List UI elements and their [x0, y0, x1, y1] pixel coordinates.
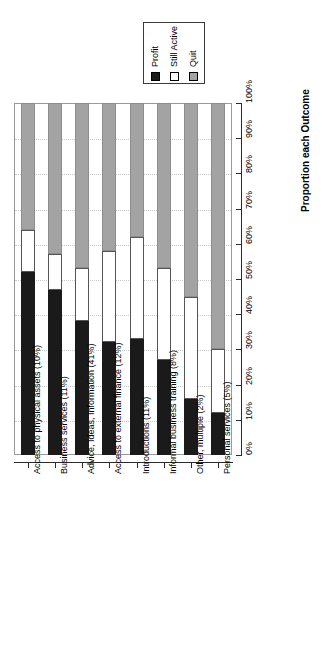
bar-segment-active: [75, 268, 89, 321]
bar-segment-quit: [102, 103, 116, 251]
value-tick: [236, 455, 241, 456]
value-tick: [236, 103, 241, 104]
value-tick: [236, 173, 241, 174]
category-tick: [164, 462, 165, 468]
value-axis-title: Proportion each Outcome: [300, 89, 312, 212]
value-tick-label: 30%: [244, 331, 254, 349]
category-label-6: Other, multiple (2%): [195, 394, 205, 474]
category-tick: [109, 462, 110, 468]
category-label-4: Introductions (11%): [141, 397, 151, 474]
bar-segment-quit: [75, 103, 89, 268]
category-label-3: Access to external finance (12%): [113, 342, 123, 474]
category-tick: [191, 462, 192, 468]
legend-label-quit: Quit: [189, 50, 198, 67]
bar-segment-active: [48, 254, 62, 289]
value-tick-label: 0%: [244, 442, 254, 455]
legend-swatch-profit: [151, 72, 160, 81]
value-tick: [236, 349, 241, 350]
category-tick: [28, 462, 29, 468]
category-label-0: Access to physical assets (10%): [32, 345, 42, 474]
legend-inner: Profit Still Active Quit: [144, 23, 206, 85]
bar-segment-quit: [211, 103, 225, 349]
category-label-2: Advice, Ideas, Information (41%): [86, 343, 96, 474]
category-label-1: Business services (11%): [59, 376, 69, 474]
value-tick-label: 100%: [244, 80, 254, 103]
bar-segment-quit: [48, 103, 62, 254]
category-label-7: Personal services (5%): [222, 381, 232, 474]
bar-segment-active: [157, 268, 171, 360]
legend-item-still-active: Still Active: [167, 26, 182, 81]
category-tick: [137, 462, 138, 468]
legend-item-profit: Profit: [148, 46, 163, 81]
bar-segment-active: [21, 230, 35, 272]
legend-label-still-active: Still Active: [170, 26, 179, 67]
bar-segment-quit: [130, 103, 144, 237]
value-tick: [236, 314, 241, 315]
category-label-5: Informal business training (8%): [168, 350, 178, 474]
bar-segment-active: [130, 237, 144, 339]
value-tick-label: 10%: [244, 402, 254, 420]
bar-segment-quit: [157, 103, 171, 268]
value-tick: [236, 385, 241, 386]
chart-root: Profit Still Active Quit 0%10%20%30%40%5…: [0, 0, 330, 659]
bar-segment-active: [184, 297, 198, 399]
category-tick: [82, 462, 83, 468]
value-tick: [236, 209, 241, 210]
legend-item-quit: Quit: [186, 50, 201, 81]
value-tick: [236, 279, 241, 280]
legend-swatch-quit: [189, 72, 198, 81]
legend-label-profit: Profit: [151, 46, 160, 67]
value-tick-label: 20%: [244, 367, 254, 385]
value-tick-label: 50%: [244, 261, 254, 279]
value-tick-label: 70%: [244, 191, 254, 209]
bar-segment-active: [102, 251, 116, 343]
value-tick: [236, 420, 241, 421]
value-tick: [236, 138, 241, 139]
value-axis-line: [241, 103, 242, 456]
chart-legend: Profit Still Active Quit: [143, 22, 205, 84]
bar-segment-quit: [184, 103, 198, 297]
value-tick-label: 40%: [244, 296, 254, 314]
bar-segment-quit: [21, 103, 35, 230]
value-tick: [236, 244, 241, 245]
legend-swatch-still-active: [170, 72, 179, 81]
value-tick-label: 60%: [244, 226, 254, 244]
category-tick: [218, 462, 219, 468]
value-tick-label: 90%: [244, 120, 254, 138]
value-tick-label: 80%: [244, 155, 254, 173]
category-tick: [55, 462, 56, 468]
